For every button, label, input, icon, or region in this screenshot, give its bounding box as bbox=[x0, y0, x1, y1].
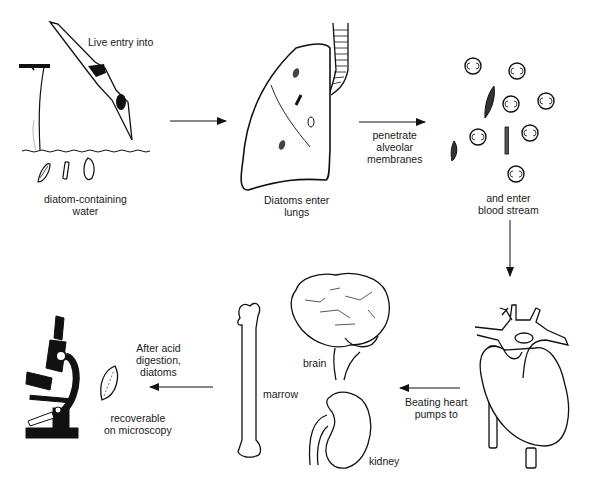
label-line: water bbox=[44, 205, 127, 217]
label-line: alveolar bbox=[367, 141, 422, 153]
label-line: lungs bbox=[264, 206, 329, 218]
label-line: membranes bbox=[367, 153, 422, 165]
label-water: diatom-containing water bbox=[44, 193, 127, 217]
label-line: marrow bbox=[263, 388, 298, 400]
label-line: recoverable bbox=[104, 412, 172, 424]
label-microscopy: recoverable on microscopy bbox=[104, 412, 172, 436]
heart-icon bbox=[475, 305, 568, 468]
label-line: kidney bbox=[369, 455, 399, 467]
kidney-icon bbox=[310, 392, 371, 468]
cliff-icon bbox=[19, 66, 50, 150]
label-line: After acid bbox=[136, 342, 181, 354]
diatom-icon bbox=[451, 86, 508, 161]
label-line: brain bbox=[303, 357, 326, 369]
water-surface-icon bbox=[22, 150, 150, 152]
microscope-icon bbox=[26, 316, 78, 438]
label-line: diatoms bbox=[136, 366, 181, 378]
diatom-icon bbox=[101, 366, 118, 400]
label-membranes: penetrate alveolar membranes bbox=[367, 129, 422, 165]
label-line: Live entry into bbox=[88, 36, 153, 48]
label-digestion: After acid digestion, diatoms bbox=[136, 342, 181, 378]
label-lungs: Diatoms enter lungs bbox=[264, 194, 329, 218]
label-line: Diatoms enter bbox=[264, 194, 329, 206]
label-brain: brain bbox=[303, 357, 326, 369]
bone-icon bbox=[238, 303, 261, 457]
blood-cell-icon bbox=[465, 58, 554, 182]
label-line: penetrate bbox=[367, 129, 422, 141]
label-line: Beating heart bbox=[405, 396, 467, 408]
label-line: pumps to bbox=[405, 408, 467, 420]
trachea-icon bbox=[330, 23, 348, 95]
label-heart: Beating heart pumps to bbox=[405, 396, 467, 420]
label-line: digestion, bbox=[136, 354, 181, 366]
label-kidney: kidney bbox=[369, 455, 399, 467]
label-line: blood stream bbox=[478, 204, 539, 216]
diatom-icon bbox=[38, 158, 94, 182]
label-line: on microscopy bbox=[104, 424, 172, 436]
label-line: and enter bbox=[478, 192, 539, 204]
label-marrow: marrow bbox=[263, 388, 298, 400]
label-blood: and enter blood stream bbox=[478, 192, 539, 216]
label-entry: Live entry into bbox=[88, 36, 153, 48]
label-line: diatom-containing bbox=[44, 193, 127, 205]
diagram-artwork bbox=[0, 0, 589, 480]
lung-icon bbox=[241, 44, 330, 190]
